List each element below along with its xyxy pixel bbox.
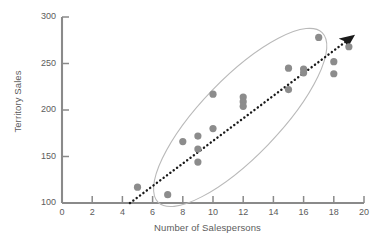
axes bbox=[62, 17, 364, 203]
x-tick-label: 20 bbox=[354, 207, 374, 217]
x-tick-label: 10 bbox=[203, 207, 223, 217]
data-point bbox=[285, 65, 292, 72]
trendline-arrow bbox=[130, 39, 349, 203]
y-tick-label: 250 bbox=[26, 58, 56, 68]
trendline bbox=[130, 39, 349, 203]
data-point bbox=[315, 34, 322, 41]
y-tick-label: 300 bbox=[26, 11, 56, 21]
y-tick-label: 100 bbox=[26, 197, 56, 207]
x-tick-label: 6 bbox=[143, 207, 163, 217]
data-point bbox=[179, 138, 186, 145]
x-tick-label: 4 bbox=[112, 207, 132, 217]
data-point bbox=[300, 69, 307, 76]
scatter-chart: Territory Sales Number of Salespersons 1… bbox=[0, 0, 385, 243]
x-tick-label: 16 bbox=[294, 207, 314, 217]
x-tick-label: 0 bbox=[52, 207, 72, 217]
data-point bbox=[209, 125, 216, 132]
data-point bbox=[134, 184, 141, 191]
data-point bbox=[194, 158, 201, 165]
x-tick-label: 2 bbox=[82, 207, 102, 217]
y-tick-label: 150 bbox=[26, 151, 56, 161]
data-point bbox=[194, 132, 201, 139]
data-point bbox=[330, 70, 337, 77]
data-point bbox=[240, 103, 247, 110]
data-points bbox=[134, 34, 353, 198]
data-point bbox=[345, 43, 352, 50]
y-axis-title: Territory Sales bbox=[12, 54, 23, 150]
data-point bbox=[194, 145, 201, 152]
data-point bbox=[330, 58, 337, 65]
data-point bbox=[164, 191, 171, 198]
x-tick-label: 8 bbox=[173, 207, 193, 217]
y-tick-label: 200 bbox=[26, 104, 56, 114]
x-tick-label: 12 bbox=[233, 207, 253, 217]
x-axis-title: Number of Salespersons bbox=[0, 222, 385, 233]
data-point bbox=[209, 91, 216, 98]
x-tick-label: 14 bbox=[263, 207, 283, 217]
data-point bbox=[285, 86, 292, 93]
x-tick-label: 18 bbox=[324, 207, 344, 217]
